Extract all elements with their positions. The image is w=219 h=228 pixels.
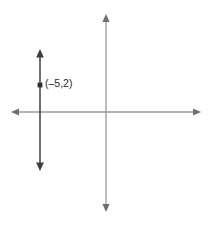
vertical-axis-up-arrowhead-icon — [102, 14, 109, 22]
coordinate-plane-svg — [0, 0, 219, 228]
vertical-axis — [102, 14, 109, 212]
vertical-axis-down-arrowhead-icon — [102, 204, 109, 212]
graphed-line-up-arrowhead-icon — [36, 49, 44, 58]
coordinate-plane-figure: (–5,2) — [0, 0, 219, 228]
graphed-line-down-arrowhead-icon — [36, 163, 44, 172]
point-coordinate-label: (–5,2) — [45, 77, 72, 89]
graphed-vertical-line — [36, 49, 44, 171]
horizontal-axis-right-arrowhead-icon — [193, 108, 201, 115]
horizontal-axis-left-arrowhead-icon — [11, 108, 19, 115]
point-marker — [38, 83, 43, 88]
